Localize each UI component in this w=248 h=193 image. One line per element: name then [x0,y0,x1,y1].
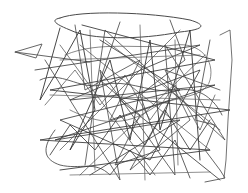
scribble-stroke [220,30,232,178]
scribble-drawing [0,0,248,193]
scribble-canvas [0,0,248,193]
